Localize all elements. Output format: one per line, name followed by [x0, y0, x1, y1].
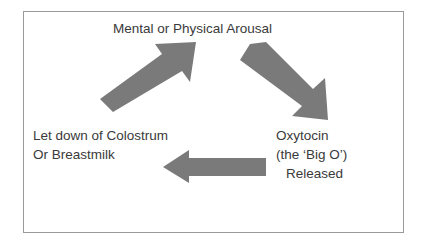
diagram-frame	[23, 11, 404, 233]
node-right-line2: (the ‘Big O’)	[276, 145, 347, 164]
arrow-up-right-icon	[100, 40, 200, 112]
node-left-line2: Or Breastmilk	[33, 145, 168, 164]
node-top-arousal: Mental or Physical Arousal	[113, 19, 272, 38]
node-left-line1: Let down of Colostrum	[33, 126, 168, 145]
node-right-line1: Oxytocin	[276, 126, 347, 145]
arrow-down-right-icon	[240, 42, 328, 120]
diagram-canvas: Mental or Physical Arousal Let down of C…	[0, 0, 426, 248]
node-right-line3: Released	[276, 164, 347, 183]
node-top-label: Mental or Physical Arousal	[113, 19, 272, 38]
node-left-letdown: Let down of Colostrum Or Breastmilk	[33, 126, 168, 164]
arrow-left-icon	[163, 150, 266, 183]
node-right-oxytocin: Oxytocin (the ‘Big O’) Released	[276, 126, 347, 183]
